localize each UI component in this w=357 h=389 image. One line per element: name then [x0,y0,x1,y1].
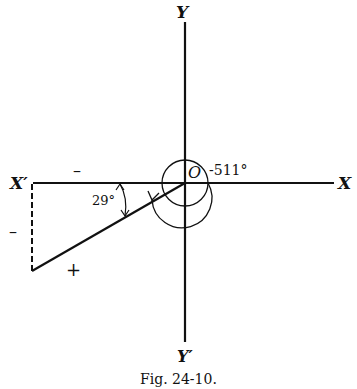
x-sign-label: – [73,161,81,180]
arrow-up-icon [116,184,124,190]
x-prime-label: X′ [9,173,28,193]
angle-diagram: Y X X′ Y′ O -511° 29° – – + Fig. 24-10. [0,0,357,389]
figure-caption: Fig. 24-10. [140,371,217,387]
y-sign-label: – [9,222,17,241]
hypotenuse-sign-label: + [66,259,81,280]
origin-label: O [188,163,201,182]
reference-angle-label: 29° [92,193,115,208]
y-prime-label: Y′ [177,347,193,366]
y-axis-label: Y [176,2,190,22]
x-axis-label: X [337,173,352,193]
angle-value-label: -511° [209,162,247,178]
